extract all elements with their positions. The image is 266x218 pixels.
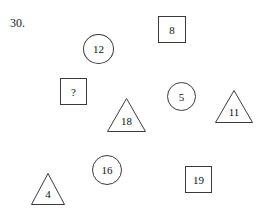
worksheet-canvas: 30. 812?5111816194 (0, 0, 266, 218)
triangle-11-label: 11 (215, 107, 253, 118)
triangle-11: 11 (215, 90, 253, 123)
circle-12-label: 12 (84, 44, 113, 55)
square-19-label: 19 (186, 174, 211, 185)
triangle-18-label: 18 (107, 116, 146, 127)
square-8-label: 8 (159, 24, 185, 35)
square-q-label: ? (61, 86, 86, 97)
circle-16-label: 16 (93, 165, 121, 176)
problem-number: 30. (10, 17, 25, 29)
circle-5: 5 (167, 82, 196, 111)
triangle-4-label: 4 (31, 189, 65, 200)
square-8: 8 (158, 16, 186, 43)
square-19: 19 (185, 166, 212, 193)
square-q: ? (60, 78, 87, 105)
circle-5-label: 5 (168, 91, 195, 102)
triangle-18: 18 (107, 98, 146, 132)
triangle-4: 4 (31, 173, 65, 205)
circle-12: 12 (83, 34, 114, 64)
circle-16: 16 (92, 155, 122, 185)
